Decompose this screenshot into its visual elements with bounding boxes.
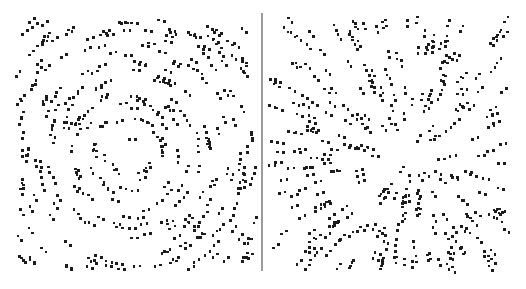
glass-pattern-figure — [0, 0, 526, 289]
figure-canvas — [0, 0, 526, 289]
figure-background — [0, 0, 526, 289]
